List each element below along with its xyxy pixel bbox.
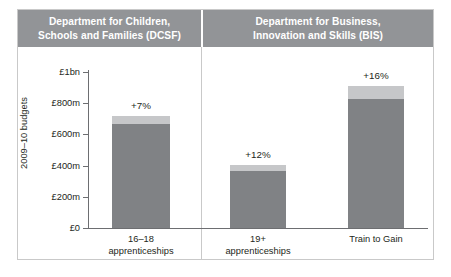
department-header-dcsf-line1: Department for Children, <box>38 15 181 28</box>
department-header-bis-line2: Innovation and Skills (BIS) <box>253 29 383 42</box>
department-header-bis: Department for Business, Innovation and … <box>203 10 433 47</box>
department-header-bis-line1: Department for Business, <box>253 15 383 28</box>
figure-root: Department for Children, Schools and Fam… <box>0 0 451 277</box>
department-header-band: Department for Children, Schools and Fam… <box>18 10 433 47</box>
department-divider <box>201 47 202 259</box>
department-header-dcsf: Department for Children, Schools and Fam… <box>18 10 201 47</box>
department-header-dcsf-line2: Schools and Families (DCSF) <box>38 29 181 42</box>
